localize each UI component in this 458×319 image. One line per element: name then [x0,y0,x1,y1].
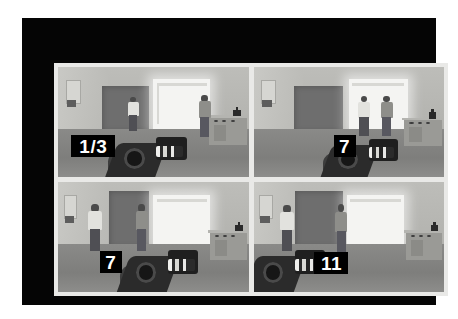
figure-torso [358,102,370,118]
counter-knob [231,120,235,122]
weapon-barrel [369,147,395,158]
figure-legs [90,229,100,250]
counter-knob [419,235,423,237]
figure-legs [129,115,137,131]
counter-knob [427,235,431,237]
counter-knob [411,235,415,237]
bottle-neck [238,222,240,225]
counter-knob [223,235,227,237]
game-scene [254,67,445,177]
character-figure [278,205,295,250]
door-mullion [157,83,159,123]
bottle-neck [236,107,238,110]
character-figure [334,204,349,254]
game-panel[interactable]: 1/3 [58,67,249,177]
bright-doorway [347,195,404,245]
game-scene [58,182,249,292]
panel-number-badge: 7 [334,135,356,157]
counter-knob [215,235,219,237]
counter-cabinet [404,118,442,147]
counter-top [206,115,248,118]
panel-mount: 1/3 [54,63,448,296]
panel-number-badge: 1/3 [71,135,115,157]
figure-torso [136,211,148,229]
game-panel[interactable]: 7 [58,182,249,292]
figure-torso [88,211,102,229]
character-figure [127,97,140,131]
game-panel[interactable]: 11 [254,182,445,292]
bottle [431,225,439,232]
weapon-barrel [168,259,195,271]
counter-door [214,125,226,140]
figure-legs [382,117,391,135]
figure-legs [359,117,368,135]
figure-legs [337,231,346,254]
door-mullion [352,83,404,86]
figure-torso [128,102,139,116]
wall-outlet [67,100,77,107]
counter-knob [214,120,218,122]
screenshot-page: 1/3 [0,0,458,319]
counter-door [409,127,421,142]
figure-torso [199,101,211,118]
door-mullion [157,83,207,86]
bottle [235,225,243,232]
counter-cabinet [209,115,247,145]
character-figure [134,204,149,250]
counter-knob [231,235,235,237]
bottle-neck [431,109,433,112]
figure-legs [200,117,209,136]
character-figure [197,95,212,137]
counter-knob [222,120,226,122]
counter-knob [426,122,430,124]
counter-knob [409,122,413,124]
game-panel[interactable]: 7 [254,67,445,177]
character-figure [356,96,371,136]
wall-outlet [260,216,270,223]
wall-outlet [262,100,272,107]
player-weapon [123,248,203,292]
door-mullion [350,199,400,201]
panel-number-badge: 11 [314,252,348,274]
dark-doorway [294,86,344,132]
bottle [429,112,437,119]
counter-top [402,118,444,121]
weapon-muzzle [263,262,284,283]
bottle-neck [433,222,435,225]
bottle [233,110,241,117]
bright-doorway [153,195,210,245]
figure-torso [381,102,393,118]
panel-grid: 1/3 [58,67,444,292]
weapon-muzzle [124,148,145,168]
game-scene [58,67,249,177]
game-scene [254,182,445,292]
black-frame-border: 1/3 [22,18,436,305]
panel-number-badge: 7 [100,251,122,273]
figure-torso [335,212,347,232]
counter-door [215,240,227,255]
figure-torso [280,212,294,230]
counter-knob [418,122,422,124]
door-mullion [157,199,207,201]
counter-door [411,240,423,255]
counter-cabinet [406,230,442,260]
character-figure [379,96,394,136]
player-weapon [111,135,191,177]
wall-outlet [65,216,75,223]
weapon-barrel [156,146,183,157]
counter-cabinet [210,230,246,260]
character-figure [87,204,104,250]
